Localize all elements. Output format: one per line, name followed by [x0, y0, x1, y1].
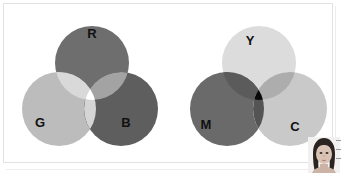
- venn-label-g: G: [35, 115, 45, 130]
- venn-label-b: B: [121, 115, 130, 130]
- edge-tick: [336, 140, 341, 141]
- venn-label-r: R: [87, 26, 97, 41]
- venn-diagram-rgb: R G B: [0, 0, 172, 173]
- venn-label-y: Y: [246, 33, 255, 48]
- edge-tick: [336, 149, 341, 150]
- page-edge-tick-marks: [336, 140, 342, 166]
- venn-label-c: C: [290, 119, 300, 134]
- screenshot-canvas: R G B: [0, 0, 343, 173]
- venn-label-m: M: [201, 117, 212, 132]
- edge-tick: [336, 158, 341, 159]
